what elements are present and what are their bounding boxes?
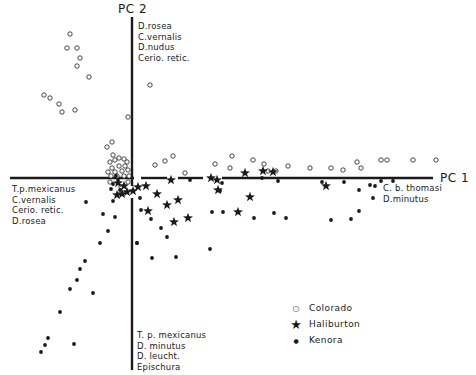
data-point-colorado (68, 32, 72, 36)
data-point-kenora (208, 247, 212, 251)
data-point-kenora (91, 291, 95, 295)
data-point-colorado (110, 140, 114, 144)
data-point-kenora (98, 241, 102, 245)
data-point-haliburton (183, 213, 193, 222)
data-point-kenora (373, 184, 377, 188)
data-point-colorado (127, 174, 131, 178)
data-point-haliburton (143, 206, 153, 215)
pc1-positive-loadings: C. b. thomasi D.minutus (383, 183, 442, 204)
legend-label: Colorado (309, 303, 352, 313)
legend-item-colorado: ○ Colorado (289, 300, 360, 316)
data-point-kenora (118, 188, 122, 192)
data-point-kenora (368, 183, 372, 187)
data-point-colorado (87, 75, 91, 79)
data-point-colorado (65, 46, 69, 50)
data-point-kenora (39, 350, 43, 354)
data-point-haliburton (141, 181, 151, 190)
data-point-kenora (46, 336, 50, 340)
data-point-kenora (116, 178, 120, 182)
data-point-colorado (434, 158, 438, 162)
data-point-kenora (260, 176, 264, 180)
data-point-colorado (355, 160, 359, 164)
data-point-colorado (122, 174, 126, 178)
data-point-kenora (159, 226, 163, 230)
data-point-colorado (308, 166, 312, 170)
data-point-colorado (42, 93, 46, 97)
data-point-kenora (83, 259, 87, 263)
data-point-colorado (109, 174, 113, 178)
data-point-colorado (230, 154, 234, 158)
data-point-colorado (75, 64, 79, 68)
data-point-colorado (75, 46, 79, 50)
data-point-colorado (251, 158, 255, 162)
data-point-colorado (411, 158, 415, 162)
data-point-colorado (153, 163, 157, 167)
data-point-colorado (171, 154, 175, 158)
data-point-colorado (48, 96, 52, 100)
data-point-haliburton (268, 167, 278, 176)
data-point-kenora (135, 241, 139, 245)
data-point-kenora (78, 267, 82, 271)
data-point-haliburton (240, 168, 250, 177)
data-point-colorado (108, 160, 112, 164)
pc1-negative-loadings: T.p.mexicanus C.vernalis Cerio. retic. D… (12, 184, 75, 226)
data-point-colorado (78, 56, 82, 60)
data-point-colorado (106, 170, 110, 174)
pc2-negative-loadings: T. p. mexicanus D. minutus D. leucht. Ep… (137, 330, 206, 372)
data-point-colorado (117, 164, 121, 168)
data-point-colorado (213, 162, 217, 166)
data-point-colorado (60, 110, 64, 114)
data-point-haliburton (173, 195, 183, 204)
data-point-haliburton (206, 173, 216, 182)
data-point-colorado (329, 166, 333, 170)
data-point-haliburton (213, 185, 223, 194)
data-points (39, 32, 438, 354)
data-point-kenora (276, 179, 280, 183)
data-point-kenora (106, 229, 110, 233)
data-point-kenora (43, 343, 47, 347)
data-point-kenora (371, 196, 375, 200)
data-point-kenora (84, 200, 88, 204)
data-point-kenora (139, 208, 143, 212)
legend-item-haliburton: ★ Haliburton (289, 316, 360, 332)
data-point-kenora (329, 218, 333, 222)
data-point-kenora (111, 182, 115, 186)
pc2-axis-title: PC 2 (118, 2, 147, 16)
data-point-kenora (72, 342, 76, 346)
data-point-colorado (126, 168, 130, 172)
data-point-kenora (252, 216, 256, 220)
data-point-colorado (262, 162, 266, 166)
data-point-kenora (320, 180, 324, 184)
data-point-colorado (379, 158, 383, 162)
legend: ○ Colorado ★ Haliburton ● Kenora (289, 300, 360, 348)
data-point-kenora (210, 210, 214, 214)
data-point-colorado (183, 171, 187, 175)
open-circle-icon: ○ (289, 304, 303, 313)
data-point-kenora (220, 181, 224, 185)
data-point-haliburton (245, 192, 255, 201)
data-point-kenora (114, 174, 118, 178)
legend-item-kenora: ● Kenora (289, 332, 360, 348)
data-point-colorado (148, 83, 152, 87)
data-point-kenora (342, 180, 346, 184)
data-point-kenora (349, 217, 353, 221)
data-point-colorado (359, 166, 363, 170)
data-point-colorado (105, 145, 109, 149)
data-point-kenora (284, 216, 288, 220)
data-point-kenora (174, 255, 178, 259)
data-point-haliburton (166, 175, 176, 184)
legend-label: Haliburton (309, 319, 360, 329)
data-point-kenora (58, 310, 62, 314)
data-point-kenora (218, 189, 222, 193)
star-icon: ★ (289, 317, 303, 332)
data-point-haliburton (162, 200, 172, 209)
data-point-kenora (138, 196, 142, 200)
data-point-kenora (109, 187, 113, 191)
data-point-haliburton (233, 207, 243, 216)
data-point-colorado (73, 108, 77, 112)
data-point-colorado (341, 168, 345, 172)
data-point-colorado (228, 166, 232, 170)
data-point-colorado (111, 153, 115, 157)
legend-label: Kenora (309, 335, 343, 345)
data-point-kenora (357, 188, 361, 192)
